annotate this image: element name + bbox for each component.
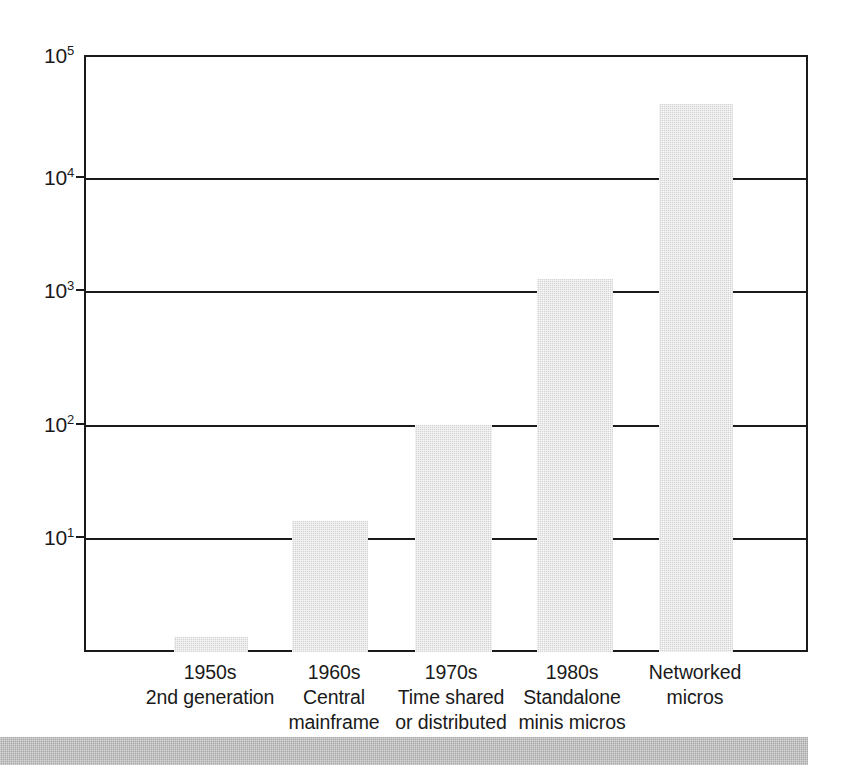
y-tick-exponent: 3: [67, 278, 74, 293]
y-axis-tick-label: 104: [44, 167, 74, 188]
y-tick-exponent: 1: [67, 525, 74, 540]
x-label-line: Networked: [615, 660, 775, 685]
bar-networked-micros: [659, 104, 733, 652]
y-tick-base: 10: [44, 279, 67, 302]
y-tick-base: 10: [44, 413, 67, 436]
y-axis-tick-label: 101: [44, 527, 74, 548]
y-axis-tick-label: 105: [44, 45, 74, 66]
y-axis-tick-label: 102: [44, 414, 74, 435]
y-tick-exponent: 4: [67, 165, 74, 180]
bar-1960s: [292, 521, 368, 652]
x-axis-label-networked-micros: Networked micros: [615, 660, 775, 710]
y-axis-labels: 105 104 103 102 101: [0, 0, 74, 765]
y-tick-exponent: 5: [67, 43, 74, 58]
bottom-gray-band: [0, 737, 808, 765]
bar-1980s: [537, 279, 613, 652]
y-tick-exponent: 2: [67, 412, 74, 427]
y-axis-tick-label: 103: [44, 280, 74, 301]
y-tick-base: 10: [44, 44, 67, 67]
x-label-line: micros: [615, 685, 775, 710]
y-tick-base: 10: [44, 526, 67, 549]
y-tick-base: 10: [44, 166, 67, 189]
plot-area: [84, 55, 808, 652]
bar-1970s: [415, 425, 492, 652]
x-label-line: minis micros: [492, 710, 652, 735]
x-axis-labels: 1950s 2nd generation 1960s Central mainf…: [0, 660, 842, 735]
bar-chart-figure: 105 104 103 102 101: [0, 0, 842, 765]
bar-1950s: [174, 637, 248, 652]
